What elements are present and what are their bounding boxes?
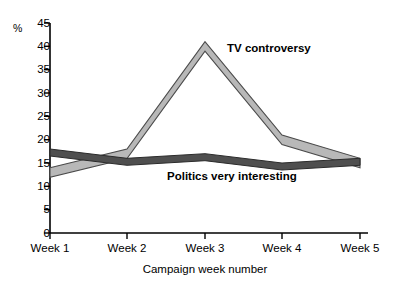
- y-axis-unit-label: %: [13, 23, 22, 34]
- y-tick-label-45: 45: [24, 18, 50, 30]
- y-tick-label-0: 0: [24, 228, 50, 240]
- x-tick-label-week-2: Week 2: [97, 243, 157, 255]
- y-tick-label-10: 10: [24, 181, 50, 193]
- series-label-tv-controversy: TV controversy: [227, 43, 311, 55]
- y-tick-label-30: 30: [24, 88, 50, 100]
- x-axis-ticks: [50, 233, 360, 239]
- x-tick-label-week-5: Week 5: [330, 243, 390, 255]
- y-tick-label-20: 20: [24, 134, 50, 146]
- y-tick-label-25: 25: [24, 111, 50, 123]
- x-tick-label-week-3: Week 3: [175, 243, 235, 255]
- y-tick-label-5: 5: [24, 204, 50, 216]
- series-label-politics-very-interesting: Politics very interesting: [167, 171, 297, 183]
- x-tick-label-week-4: Week 4: [252, 243, 312, 255]
- x-axis-title: Campaign week number: [85, 264, 325, 276]
- y-tick-label-35: 35: [24, 64, 50, 76]
- y-axis-ticks: [44, 23, 50, 233]
- chart-container: % 45 40 35 30 25 20 15 10 5 0 Week 1 Wee…: [0, 0, 402, 290]
- y-tick-label-40: 40: [24, 41, 50, 53]
- x-tick-label-week-1: Week 1: [20, 243, 80, 255]
- y-tick-label-15: 15: [24, 158, 50, 170]
